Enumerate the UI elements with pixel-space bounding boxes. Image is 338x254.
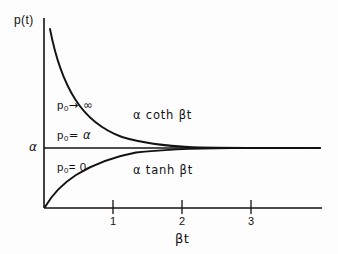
p0-infinity-rest: → ∞ — [69, 98, 93, 112]
tanh-curve — [45, 148, 320, 207]
p0-infinity-prefix: p — [57, 99, 64, 111]
x-tick-label-2: 2 — [179, 216, 185, 227]
curve-label-tanh: α tanh βt — [133, 165, 193, 177]
x-tick-label-3: 3 — [248, 216, 254, 227]
p0-alpha-rest: = α — [69, 128, 91, 142]
condition-label-p0-equals-zero: p0= 0 — [57, 162, 87, 175]
x-tick-label-1: 1 — [110, 216, 116, 227]
y-tick-label-alpha: α — [29, 141, 37, 153]
y-axis-label: p(t) — [14, 14, 34, 26]
x-axis-label: βt — [175, 232, 189, 245]
p0-zero-prefix: p — [57, 161, 64, 173]
condition-label-p0-infinity: p0→ ∞ — [57, 100, 93, 113]
p0-alpha-prefix: p — [57, 129, 64, 141]
plot-canvas — [0, 0, 338, 254]
p0-zero-rest: = 0 — [69, 161, 87, 173]
condition-label-p0-equals-alpha: p0= α — [57, 130, 91, 143]
curve-label-coth: α coth βt — [133, 110, 192, 122]
figure-container: p(t) α p0→ ∞ p0= α p0= 0 α coth βt α tan… — [0, 0, 338, 254]
